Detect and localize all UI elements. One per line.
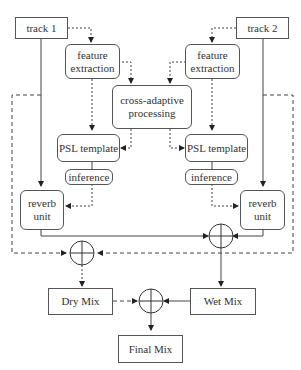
- track1-label: track 1: [26, 22, 56, 35]
- psl-template-right-node: PSL template: [185, 134, 248, 162]
- reverb-unit-right-node: reverb unit: [240, 190, 285, 230]
- cross-adaptive-processing-label: cross-adaptive processing: [120, 94, 184, 120]
- feature-extraction-right-node: feature extraction: [185, 44, 240, 79]
- final-sum-junction: [139, 289, 163, 313]
- feature-extraction-right-label: feature extraction: [191, 49, 235, 75]
- feature-extraction-left-node: feature extraction: [65, 44, 120, 79]
- final-mix-node: Final Mix: [118, 335, 183, 363]
- cross-adaptive-processing-node: cross-adaptive processing: [112, 85, 192, 129]
- edge-featureL-cross: [122, 62, 131, 83]
- track2-node: track 2: [236, 17, 289, 39]
- inference-right-label: inference: [191, 171, 232, 184]
- wet-sum-junction: [209, 224, 233, 248]
- edge-track2-feature: [212, 28, 236, 42]
- edge-cross-pslL: [121, 129, 131, 148]
- inference-left-node: inference: [65, 169, 113, 185]
- reverb-unit-left-label: reverb unit: [28, 197, 56, 223]
- edge-infL-reverb: [66, 184, 92, 206]
- inference-left-label: inference: [69, 171, 110, 184]
- wet-mix-node: Wet Mix: [190, 288, 256, 315]
- edge-featureR-cross: [170, 62, 186, 83]
- track2-label: track 2: [247, 22, 277, 35]
- dry-sum-junction: [70, 241, 94, 265]
- edge-infR-reverb: [212, 184, 238, 206]
- feature-extraction-left-label: feature extraction: [71, 49, 115, 75]
- reverb-unit-left-node: reverb unit: [20, 190, 64, 230]
- psl-template-left-node: PSL template: [57, 134, 120, 162]
- track1-node: track 1: [15, 17, 68, 39]
- wet-mix-label: Wet Mix: [204, 295, 243, 308]
- edge-reverbL-wetsum: [41, 230, 208, 236]
- edge-track1-feature: [68, 28, 91, 42]
- inference-right-node: inference: [185, 169, 238, 185]
- edge-reverbR-wetsum: [233, 230, 263, 236]
- reverb-unit-right-label: reverb unit: [248, 197, 276, 223]
- psl-template-left-label: PSL template: [59, 142, 118, 155]
- dry-mix-node: Dry Mix: [48, 288, 113, 315]
- dry-mix-label: Dry Mix: [61, 295, 99, 308]
- edge-cross-pslR: [170, 129, 184, 148]
- final-mix-label: Final Mix: [129, 343, 173, 356]
- psl-template-right-label: PSL template: [187, 142, 246, 155]
